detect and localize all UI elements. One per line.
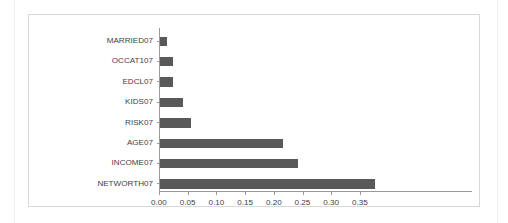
bar-row: INCOME07 [160,153,482,173]
x-axis-tick [303,192,304,195]
page-border-right [497,0,498,223]
x-axis-tick-label: 0.35 [352,197,368,208]
category-label: MARRIED07 [107,35,153,46]
category-label: AGE07 [127,137,153,148]
category-label: KIDS07 [125,96,153,107]
bar [160,77,173,87]
x-axis-tick [331,192,332,195]
category-label: NETWORTH07 [97,178,153,189]
bar [160,98,183,108]
bar [160,139,283,149]
bar-row: RISK07 [160,113,482,133]
x-axis-tick-label: 0.00 [151,197,167,208]
bar [160,37,167,47]
page-border-left [14,0,15,223]
x-axis-tick-label: 0.30 [323,197,339,208]
x-axis-tick-label: 0.10 [209,197,225,208]
x-axis-tick [216,192,217,195]
x-axis-tick [245,192,246,195]
bar [160,118,191,128]
bar-row: OCCAT107 [160,51,482,71]
bar-row: MARRIED07 [160,31,482,51]
x-axis-tick [188,192,189,195]
chart-frame: MARRIED07OCCAT107EDCL07KIDS07RISK07AGE07… [28,14,480,207]
category-label: INCOME07 [112,157,153,168]
chart-image: MARRIED07OCCAT107EDCL07KIDS07RISK07AGE07… [0,0,508,223]
bar [160,179,375,189]
category-label: RISK07 [125,117,153,128]
x-axis-tick [274,192,275,195]
x-axis-tick-label: 0.05 [180,197,196,208]
x-axis-tick-label: 0.20 [266,197,282,208]
plot-area: MARRIED07OCCAT107EDCL07KIDS07RISK07AGE07… [159,28,481,204]
x-axis-tick [360,192,361,195]
category-label: EDCL07 [122,76,153,87]
bar-row: EDCL07 [160,72,482,92]
bar-row: AGE07 [160,133,482,153]
bar [160,159,298,169]
bar [160,57,173,67]
category-label: OCCAT107 [112,55,153,66]
x-axis-tick [159,192,160,195]
x-axis-tick-label: 0.15 [237,197,253,208]
x-axis-tick-label: 0.25 [295,197,311,208]
bar-row: KIDS07 [160,92,482,112]
bar-row: NETWORTH07 [160,174,482,194]
